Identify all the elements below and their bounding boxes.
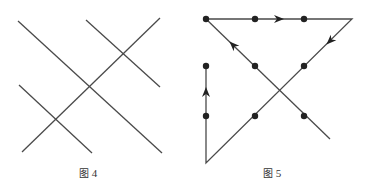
caption-number: 5 [276, 167, 282, 179]
caption-prefix: 图 [263, 168, 273, 179]
dot [301, 63, 307, 69]
dot [301, 16, 307, 22]
figure-5-path-through-nine-dots [202, 15, 352, 163]
dot [252, 113, 258, 119]
caption-number: 4 [92, 167, 98, 179]
dot [203, 113, 209, 119]
dot [203, 63, 209, 69]
diagram-canvas [0, 0, 369, 190]
line-segment [18, 21, 162, 153]
figure-4-crossing-lines [18, 18, 162, 153]
dot [252, 63, 258, 69]
caption-prefix: 图 [79, 168, 89, 179]
figure-5-caption: 图 5 [263, 165, 282, 180]
figure-4-caption: 图 4 [79, 165, 98, 180]
dot [301, 113, 307, 119]
dot [252, 16, 258, 22]
path-line [206, 19, 330, 139]
dot [203, 16, 209, 22]
